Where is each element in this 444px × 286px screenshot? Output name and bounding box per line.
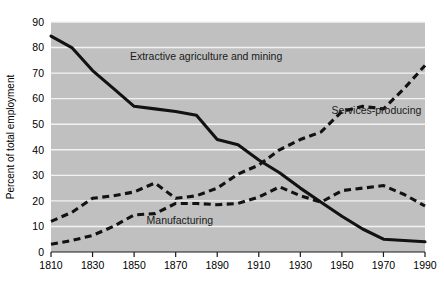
x-tick-label-1850: 1850 [122,259,146,271]
y-tick-label-10: 10 [32,220,44,232]
y-tick-label-50: 50 [32,118,44,130]
y-tick-label-20: 20 [32,195,44,207]
y-tick-label-60: 60 [32,92,44,104]
y-tick-label-30: 30 [32,169,44,181]
y-tick-label-0: 0 [38,246,44,258]
y-tick-label-90: 90 [32,16,44,28]
y-axis-title: Percent of total employment [5,75,16,200]
y-tick-label-40: 40 [32,144,44,156]
x-tick-label-1890: 1890 [206,259,230,271]
x-tick-label-1930: 1930 [289,259,313,271]
employment-share-line-chart: 0102030405060708090181018301850187018901… [0,0,444,286]
series-label-extractive-agriculture-and-mining: Extractive agriculture and mining [130,50,282,62]
y-tick-label-80: 80 [32,41,44,53]
x-tick-label-1950: 1950 [330,259,354,271]
series-label-services-producing: Services-producing [332,104,422,116]
x-tick-label-1990: 1990 [413,259,437,271]
chart-canvas: 0102030405060708090181018301850187018901… [0,0,444,286]
x-tick-label-1830: 1830 [81,259,105,271]
x-tick-label-1910: 1910 [247,259,271,271]
series-label-manufacturing: Manufacturing [147,214,214,226]
x-tick-label-1870: 1870 [164,259,188,271]
x-tick-label-1810: 1810 [39,259,63,271]
y-tick-label-70: 70 [32,67,44,79]
x-tick-label-1970: 1970 [372,259,396,271]
